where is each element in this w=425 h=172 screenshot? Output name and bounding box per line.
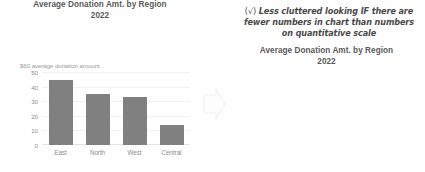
chart-title-left-subtitle: 2022 [0, 11, 200, 22]
y-tick-label: 40 [31, 83, 38, 90]
bar-slot [79, 72, 116, 145]
bar-slot [153, 72, 190, 145]
x-tick-label-north: North [79, 149, 116, 156]
bar-west[interactable] [123, 97, 147, 145]
x-tick-label-west: West [116, 149, 153, 156]
x-tick-label-east: East [42, 149, 79, 156]
x-axis-labels-left: East North West Central [42, 149, 190, 156]
x-tick-label-central: Central [153, 149, 190, 156]
y-tick-label: 10 [31, 127, 38, 134]
chart-title-right-subtitle: 2022 [228, 57, 425, 68]
annotation-text: Less cluttered looking IF there are fewe… [244, 6, 414, 38]
y-tick-label: 30 [31, 98, 38, 105]
chart-title-left-main: Average Donation Amt. by Region [33, 0, 166, 9]
chart-title-right-main: Average Donation Amt. by Region [260, 46, 393, 55]
chart-title-left: Average Donation Amt. by Region 2022 [0, 0, 200, 21]
bar-slot [42, 72, 79, 145]
annotation-note: (√) Less cluttered looking IF there are … [238, 6, 420, 40]
slide-canvas: Average Donation Amt. by Region 2022 $60… [0, 0, 425, 172]
y-tick-label: 50 [31, 69, 38, 76]
chart-panel-with-scale: Average Donation Amt. by Region 2022 $60… [0, 0, 200, 172]
bar-group-left [42, 72, 190, 145]
bar-central[interactable] [160, 125, 184, 145]
right-arrow-icon [200, 86, 228, 122]
checkmark-icon: (√) [245, 6, 256, 16]
y-tick-label: 20 [31, 112, 38, 119]
plot-area-left: 50 40 30 20 10 0 [42, 72, 190, 145]
bar-north[interactable] [86, 94, 110, 145]
y-tick-label: 0 [35, 142, 38, 149]
bar-slot [116, 72, 153, 145]
chart-title-right: Average Donation Amt. by Region 2022 [228, 46, 425, 67]
bar-east[interactable] [49, 80, 73, 145]
